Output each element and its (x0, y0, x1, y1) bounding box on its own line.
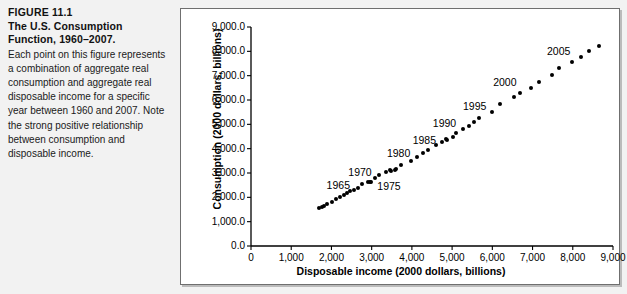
data-point (550, 73, 554, 77)
data-point (587, 49, 591, 53)
year-label: 2000 (493, 76, 516, 88)
y-tick-label: 5,000.0 (197, 118, 245, 129)
data-point (529, 86, 533, 90)
data-point (421, 151, 425, 155)
year-label: 1975 (377, 180, 400, 192)
data-point (426, 148, 430, 152)
year-label: 1995 (463, 100, 486, 112)
figure-number: FIGURE 11.1 (8, 6, 166, 20)
y-tick-label: 7,000.0 (197, 70, 245, 81)
data-point (394, 167, 398, 171)
x-tick-label: 6,000 (469, 252, 515, 263)
y-tick-label: 3,000.0 (197, 167, 245, 178)
y-tick-label: 0.0 (197, 240, 245, 251)
y-tick-label: 2,000.0 (197, 191, 245, 202)
y-tick-label: 6,000.0 (197, 94, 245, 105)
x-tick-label: 2,000 (308, 252, 354, 263)
data-point (356, 186, 360, 190)
year-label: 1970 (348, 166, 371, 178)
x-tick-label: 4,000 (389, 252, 435, 263)
x-tick-label: 1,000 (268, 252, 314, 263)
data-point (579, 55, 583, 59)
data-point (330, 200, 334, 204)
y-tick-label: 8,000.0 (197, 45, 245, 56)
data-point (440, 140, 444, 144)
x-tick-label: 3,000 (349, 252, 395, 263)
data-point (597, 44, 601, 48)
year-label: 1965 (327, 179, 350, 191)
year-label: 2005 (547, 45, 570, 57)
data-point (373, 176, 377, 180)
data-point (537, 80, 541, 84)
y-tick-label: 9,000.0 (197, 21, 245, 32)
data-point (490, 110, 494, 114)
data-point (399, 163, 403, 167)
year-label: 1985 (413, 134, 436, 146)
figure-caption: FIGURE 11.1 The U.S. Consumption Functio… (8, 6, 166, 161)
y-tick-label: 4,000.0 (197, 143, 245, 154)
x-tick-label: 7,000 (510, 252, 556, 263)
y-tick-label: 1,000.0 (197, 216, 245, 227)
data-point (445, 138, 449, 142)
x-tick-label: 8,000 (550, 252, 596, 263)
data-point (461, 127, 465, 131)
x-tick-label: 9,000 (590, 252, 627, 263)
data-point (467, 124, 471, 128)
x-tick-label: 0 (228, 252, 274, 263)
figure-description: Each point on this figure represents a c… (8, 48, 166, 162)
plot-area: Consumption (2000 dollars, billions) Dis… (181, 9, 619, 284)
data-point (369, 180, 373, 184)
x-tick-label: 5,000 (429, 252, 475, 263)
figure-title: The U.S. Consumption Function, 1960–2007… (8, 20, 166, 47)
data-point (415, 155, 419, 159)
chart-panel: Consumption (2000 dollars, billions) Dis… (180, 8, 620, 285)
data-point (512, 95, 516, 99)
year-label: 1990 (433, 117, 456, 129)
year-label: 1980 (387, 147, 410, 159)
data-point (389, 169, 393, 173)
